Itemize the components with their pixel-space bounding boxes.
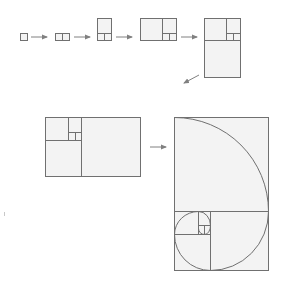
- step-4-rectangle: [141, 19, 177, 41]
- arrow-5-to-6: [184, 75, 199, 83]
- stray-mark: [4, 212, 5, 216]
- step-1-square: [21, 34, 28, 41]
- step-7-golden-spiral-rectangle: [175, 118, 269, 271]
- step-3-rectangle: [98, 19, 112, 41]
- fibonacci-diagram: [0, 0, 284, 286]
- step-6-rectangle: [46, 118, 141, 177]
- step-2-rectangle: [56, 34, 70, 41]
- step-5-rectangle: [205, 19, 241, 78]
